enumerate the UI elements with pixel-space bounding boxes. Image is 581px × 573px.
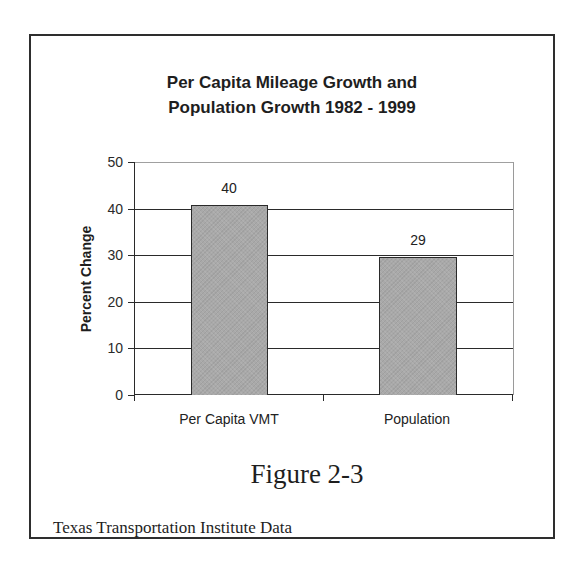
y-tick-label-40: 40 [93, 201, 123, 217]
figure-caption: Figure 2-3 [31, 458, 553, 490]
y-tick-label-20: 20 [93, 294, 123, 310]
source-note: Texas Transportation Institute Data [53, 518, 292, 538]
figure-frame: Per Capita Mileage Growth and Population… [29, 34, 555, 539]
y-tick-label-30: 30 [93, 247, 123, 263]
y-tick-50 [128, 162, 134, 163]
chart-title-line-1: Per Capita Mileage Growth and [31, 71, 553, 95]
x-tick-mid [323, 395, 324, 401]
y-tick-40 [128, 209, 134, 210]
y-axis-title-text: Percent Change [77, 199, 95, 359]
category-label-per-capita-vmt: Per Capita VMT [149, 411, 309, 427]
x-tick-start [134, 395, 135, 401]
y-tick-label-0: 0 [93, 387, 123, 403]
bar-per-capita-vmt [191, 205, 268, 395]
y-tick-10 [128, 348, 134, 349]
y-axis-line [134, 162, 135, 396]
y-tick-30 [128, 255, 134, 256]
y-tick-20 [128, 302, 134, 303]
gridline-50 [134, 162, 513, 163]
bar-population [379, 257, 457, 395]
category-label-population: Population [337, 411, 497, 427]
y-tick-label-10: 10 [93, 340, 123, 356]
x-tick-end [512, 395, 513, 401]
chart-title-line-2: Population Growth 1982 - 1999 [31, 96, 553, 120]
plot-area: 50 40 30 20 10 0 40 29 [134, 162, 514, 395]
data-label-per-capita-vmt: 40 [199, 180, 259, 196]
y-tick-label-50: 50 [93, 154, 123, 170]
data-label-population: 29 [388, 232, 448, 248]
